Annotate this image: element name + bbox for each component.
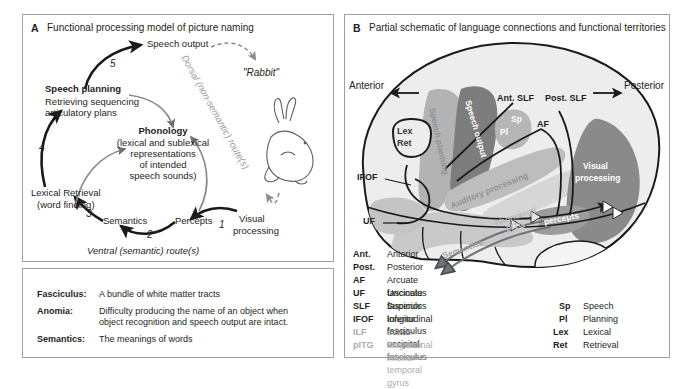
abbr-key-af: AF <box>353 274 365 287</box>
label-pl: Pl <box>500 127 508 137</box>
abbr-val-ant: Anterior <box>387 248 419 261</box>
node-speech-planning-line2: articulatory plans <box>45 107 117 119</box>
label-ant-slf: Ant. SLF <box>497 93 534 105</box>
cerebellum-folia <box>551 267 607 273</box>
node-rabbit-utterance: "Rabbit" <box>243 67 279 79</box>
label-post-slf: Post. SLF <box>545 93 587 105</box>
abbr-val-ret: Retrieval <box>583 339 619 352</box>
panel-a: A Functional processing model of picture… <box>22 14 334 262</box>
abbr-key-sp: Sp <box>559 300 571 313</box>
abbr-key-pl: Pl <box>559 313 568 326</box>
node-phonology-line3: of intended <box>139 159 186 171</box>
abbr-key-pitg: pITG <box>353 339 374 352</box>
abbr-key-slf: SLF <box>353 300 370 313</box>
abbr-key-ret: Ret <box>553 339 568 352</box>
glossary-box: Fasciculus: A bundle of white matter tra… <box>22 268 334 358</box>
abbr-val-sp: Speech <box>583 300 614 313</box>
panel-b: B Partial schematic of language connecti… <box>344 14 670 358</box>
glossary-term-anomia: Anomia: <box>37 306 73 316</box>
glossary-definition-anomia: Difficulty producing the name of an obje… <box>99 306 295 328</box>
arrow-number-5: 5 <box>110 58 116 69</box>
label-visual-processing-line1: Visual <box>583 161 608 171</box>
node-phonology-line4: speech sounds) <box>129 170 196 182</box>
node-speech-planning-line1: Retrieving sequencing <box>45 96 139 108</box>
label-posterior: Posterior <box>624 80 664 92</box>
arrow-number-3: 3 <box>86 208 92 219</box>
abbr-key-lex: Lex <box>553 326 569 339</box>
label-lex: Lex <box>397 126 413 136</box>
glossary-definition-semantics: The meanings of words <box>99 334 295 345</box>
arrow-number-4: 4 <box>39 142 45 153</box>
label-visual-processing-line2: processing <box>575 173 620 183</box>
node-speech-output: Speech output <box>147 38 208 50</box>
glossary-term-fasciculus: Fasciculus: <box>37 289 87 299</box>
node-phonology-line1: (lexical and sublexical <box>117 137 209 149</box>
abbr-key-post: Post. <box>353 261 375 274</box>
label-ifof: IFOF <box>357 172 378 184</box>
abbr-val-lex: Lexical <box>583 326 611 339</box>
glossary-term-semantics: Semantics: <box>37 334 85 344</box>
abbr-key-ifof: IFOF <box>353 313 374 326</box>
rabbit-illustration <box>265 98 313 184</box>
arrow-output-to-utterance <box>211 43 255 59</box>
node-phonology-line2: representations <box>130 148 195 160</box>
node-lexical-retrieval-line1: Lexical Retrieval <box>31 187 101 199</box>
label-af: AF <box>537 119 549 131</box>
label-ret: Ret <box>397 138 412 148</box>
abbr-val-post: Posterior <box>387 261 423 274</box>
label-sp: Sp <box>511 114 522 124</box>
abbr-val-pitg: Posterior inferior temporal gyrus <box>387 339 423 389</box>
glossary-definition-fasciculus: A bundle of white matter tracts <box>99 289 295 300</box>
label-uf: UF <box>363 216 375 228</box>
label-anterior: Anterior <box>349 80 384 92</box>
abbr-key-ant: Ant. <box>353 248 371 261</box>
node-visual-processing-line1: Visual <box>239 213 265 225</box>
arrow-number-2: 2 <box>147 229 153 240</box>
label-ventral-route: Ventral (semantic) route(s) <box>87 245 199 257</box>
arrow-number-1: 1 <box>219 219 225 230</box>
node-speech-planning-title: Speech planning <box>45 83 121 95</box>
node-phonology-title: Phonology <box>138 125 187 137</box>
abbr-key-uf: UF <box>353 287 365 300</box>
node-visual-processing-line2: processing <box>233 225 279 237</box>
arrow-picture-to-visual <box>267 193 279 203</box>
abbr-val-pl: Planning <box>583 313 618 326</box>
node-semantics: Semantics <box>103 215 147 227</box>
abbr-key-ilf: ILF <box>353 326 367 339</box>
node-percepts: Percepts <box>175 215 213 227</box>
